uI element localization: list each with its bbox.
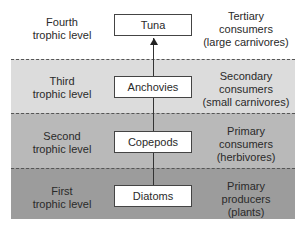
role-label-first: Primary producers (plants) [196,180,296,219]
level-label-line: Fourth [18,16,106,29]
role-label-fourth: Tertiary consumers (large carnivores) [196,10,296,49]
role-line: (plants) [196,206,296,219]
level-label-line: First [18,185,106,198]
role-line: (large carnivores) [196,36,296,49]
role-line: consumers [196,138,296,151]
organism-box-diatoms: Diatoms [114,185,192,207]
arrow-up-icon [150,38,158,45]
role-line: Primary [196,180,296,193]
energy-flow-line [153,38,154,185]
role-line: (small carnivores) [196,96,296,109]
level-label-line: trophic level [18,88,106,101]
role-line: (herbivores) [196,151,296,164]
organism-box-tuna: Tuna [114,14,192,36]
role-line: Primary [196,125,296,138]
role-line: consumers [196,23,296,36]
level-label-line: trophic level [18,29,106,42]
level-label-line: Third [18,75,106,88]
role-line: Tertiary [196,10,296,23]
level-label-line: trophic level [18,198,106,211]
role-line: consumers [196,83,296,96]
level-label-line: Second [18,130,106,143]
role-line: producers [196,193,296,206]
organism-box-anchovies: Anchovies [114,76,192,98]
level-label-line: trophic level [18,143,106,156]
role-label-third: Secondary consumers (small carnivores) [196,70,296,109]
organism-name: Tuna [141,19,166,31]
level-label-second: Second trophic level [18,130,106,156]
organism-box-copepods: Copepods [114,131,192,153]
level-label-third: Third trophic level [18,75,106,101]
organism-name: Anchovies [128,81,179,93]
role-line: Secondary [196,70,296,83]
level-label-fourth: Fourth trophic level [18,16,106,42]
organism-name: Copepods [128,136,178,148]
organism-name: Diatoms [133,190,173,202]
level-label-first: First trophic level [18,185,106,211]
role-label-second: Primary consumers (herbivores) [196,125,296,164]
